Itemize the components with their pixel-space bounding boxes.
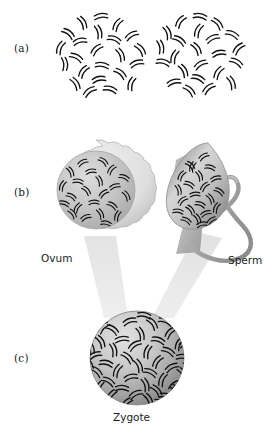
inheritance-funnel-bands [84,232,222,318]
chromosome-cluster-right [156,12,245,97]
zygote [83,311,197,410]
panel-label-b: (b) [14,186,30,198]
fertilization-figure: (a) (b) (c) Ovum Sperm Zygote [0,0,273,442]
sperm-label: Sperm [228,254,262,266]
panel-label-c: (c) [14,352,29,364]
ovum-funnel-band [84,236,128,318]
panel-a-chromosome-clusters [55,12,245,97]
ovum [57,140,157,229]
ovum-cytoplasm [57,151,135,229]
figure-canvas [0,0,273,442]
zygote-label: Zygote [113,411,150,423]
chromosome-cluster-left [55,13,147,98]
ovum-label: Ovum [41,252,72,264]
panel-label-a: (a) [14,42,29,54]
